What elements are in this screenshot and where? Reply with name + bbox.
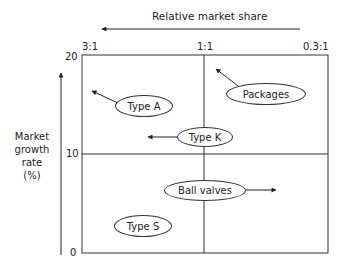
y-axis-title-line: (%): [8, 169, 56, 182]
y-axis-title-line: growth: [8, 143, 56, 156]
item-type-a: Type A: [115, 95, 173, 117]
y-axis-title-line: Market: [8, 130, 56, 143]
y-tick-20: 20: [65, 51, 78, 62]
item-type-k: Type K: [177, 127, 233, 147]
packages-arrow: [216, 69, 238, 86]
x-tick-0-3-1: 0.3:1: [303, 41, 329, 52]
y-axis-title-line: rate: [8, 156, 56, 169]
y-axis-title: Market growth rate (%): [8, 130, 56, 182]
item-packages: Packages: [226, 83, 306, 105]
type-a-arrow: [92, 91, 118, 103]
y-tick-0: 0: [70, 247, 76, 258]
x-tick-1-1: 1:1: [197, 41, 213, 52]
x-axis-title: Relative market share: [152, 10, 267, 22]
item-type-s: Type S: [114, 215, 172, 237]
y-tick-10: 10: [66, 148, 79, 159]
x-tick-3-1: 3:1: [82, 41, 98, 52]
item-ball-valves: Ball valves: [164, 180, 246, 201]
